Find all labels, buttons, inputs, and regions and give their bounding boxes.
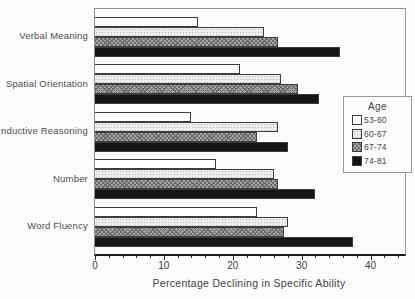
bar-age-67-74 [95, 227, 284, 237]
x-minor-tick [109, 255, 110, 258]
bar-age-67-74 [95, 132, 257, 142]
x-axis-tick-labels: 010203040 [95, 260, 405, 272]
x-minor-tick [398, 255, 399, 258]
bar-age-53-60 [95, 207, 257, 217]
grouped-bar-chart-figure: Verbal MeaningSpatial OrientationInducti… [0, 0, 415, 299]
x-minor-tick [343, 255, 344, 258]
legend: Age 53-6060-6767-7474-81 [343, 96, 412, 173]
x-tick-label: 10 [158, 260, 169, 271]
legend-item: 53-60 [352, 115, 411, 125]
x-axis-title: Percentage Declining in Specific Ability [94, 277, 404, 289]
x-minor-tick [191, 255, 192, 258]
x-minor-tick [329, 255, 330, 258]
bar-age-60-67 [95, 217, 288, 227]
category-label: Spatial Orientation [0, 63, 91, 103]
x-minor-tick [136, 255, 137, 258]
category-label: Verbal Meaning [0, 16, 91, 56]
x-minor-tick [315, 255, 316, 258]
x-minor-tick [247, 255, 248, 258]
category-label: Inductive Reasoning [0, 111, 91, 151]
bar-age-67-74 [95, 84, 298, 94]
bar-age-67-74 [95, 179, 278, 189]
legend-item: 74-81 [352, 156, 411, 166]
bar-age-74-81 [95, 142, 288, 152]
bar-age-60-67 [95, 169, 274, 179]
x-minor-tick [288, 255, 289, 258]
x-minor-tick [260, 255, 261, 258]
legend-swatch-53-60 [352, 115, 362, 125]
bar-group [95, 207, 405, 247]
x-minor-tick [123, 255, 124, 258]
x-minor-tick [274, 255, 275, 258]
x-minor-tick [384, 255, 385, 258]
legend-title: Age [352, 101, 403, 112]
y-axis-category-labels: Verbal MeaningSpatial OrientationInducti… [0, 8, 91, 253]
legend-label: 60-67 [364, 129, 387, 139]
bar-age-60-67 [95, 27, 264, 37]
bar-age-74-81 [95, 237, 353, 247]
bar-age-53-60 [95, 17, 198, 27]
x-minor-tick [219, 255, 220, 258]
bar-age-74-81 [95, 94, 319, 104]
bar-age-53-60 [95, 159, 216, 169]
legend-label: 53-60 [364, 115, 387, 125]
bar-age-53-60 [95, 64, 240, 74]
category-label: Number [0, 158, 91, 198]
legend-item: 60-67 [352, 129, 411, 139]
x-minor-tick [178, 255, 179, 258]
legend-swatch-60-67 [352, 129, 362, 139]
bar-age-60-67 [95, 74, 281, 84]
x-minor-tick [357, 255, 358, 258]
bar-age-74-81 [95, 189, 315, 199]
legend-swatch-74-81 [352, 156, 362, 166]
x-tick-label: 30 [296, 260, 307, 271]
bar-age-74-81 [95, 47, 340, 57]
x-minor-tick [205, 255, 206, 258]
legend-item: 67-74 [352, 142, 411, 152]
x-tick-label: 20 [227, 260, 238, 271]
legend-label: 74-81 [364, 156, 387, 166]
bar-age-53-60 [95, 112, 191, 122]
legend-items: 53-6060-6767-7474-81 [352, 115, 411, 166]
bar-group [95, 17, 405, 57]
category-label: Word Fluency [0, 206, 91, 246]
bar-age-60-67 [95, 122, 278, 132]
bar-age-67-74 [95, 37, 278, 47]
x-tick-label: 40 [365, 260, 376, 271]
legend-label: 67-74 [364, 142, 387, 152]
legend-swatch-67-74 [352, 142, 362, 152]
x-tick-label: 0 [92, 260, 98, 271]
x-minor-tick [150, 255, 151, 258]
